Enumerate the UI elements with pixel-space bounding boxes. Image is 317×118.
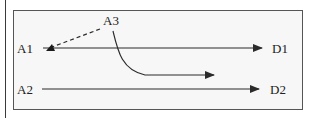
edge-a3-a1-dashed [52, 29, 100, 47]
node-label-a1: A1 [17, 42, 33, 55]
node-label-d1: D1 [272, 42, 288, 55]
edge-a3-curve [113, 31, 214, 75]
node-label-a3: A3 [103, 14, 119, 27]
diagram-canvas [0, 0, 317, 118]
node-label-d2: D2 [270, 83, 286, 96]
node-label-a2: A2 [17, 83, 33, 96]
